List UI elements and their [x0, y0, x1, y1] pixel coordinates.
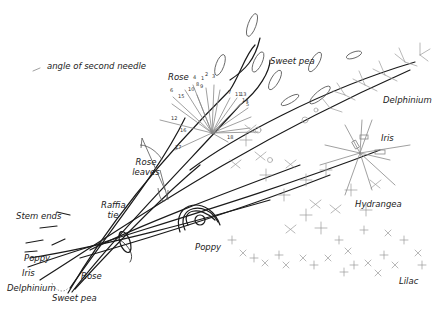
label-iris: Iris — [381, 133, 394, 143]
diagram-sketch: 1 2 3 4 5 6 7 8 9 10 11 12 13 14 15 16 1… — [0, 0, 439, 310]
svg-text:3: 3 — [212, 73, 215, 79]
svg-text:7: 7 — [228, 89, 231, 95]
label-rose-leaves: Rose leaves — [131, 157, 161, 177]
label-stem-poppy: Poppy — [24, 253, 50, 263]
svg-text:17: 17 — [175, 144, 181, 150]
label-raffia-tie: Raffia tie — [101, 200, 125, 220]
label-lilac: Lilac — [399, 276, 418, 286]
svg-text:9: 9 — [200, 83, 203, 89]
svg-text:12: 12 — [171, 115, 177, 121]
label-hydrangea: Hydrangea — [355, 199, 402, 209]
flower-arrangement-diagram: 1 2 3 4 5 6 7 8 9 10 11 12 13 14 15 16 1… — [0, 0, 439, 310]
label-delphinium: Delphinium — [383, 95, 432, 105]
label-stem-delphinium: Delphinium — [7, 283, 56, 293]
label-poppy: Poppy — [195, 242, 221, 252]
label-stem-ends: Stem ends — [16, 211, 61, 221]
svg-text:4: 4 — [193, 74, 196, 80]
label-stem-rose: Rose — [81, 271, 102, 281]
svg-text:6: 6 — [170, 87, 173, 93]
svg-text:14: 14 — [242, 97, 248, 103]
svg-text:2: 2 — [205, 71, 208, 77]
needle-legend-icon — [33, 68, 40, 71]
label-stem-sweet-pea: Sweet pea — [52, 293, 97, 303]
poppy-flower — [178, 205, 220, 232]
label-stem-iris: Iris — [22, 268, 35, 278]
svg-text:16: 16 — [180, 127, 186, 133]
svg-text:8: 8 — [196, 81, 199, 87]
stems — [28, 38, 415, 293]
hydrangea-florets — [230, 108, 381, 234]
svg-text:1: 1 — [201, 75, 204, 81]
label-sweet-pea: Sweet pea — [270, 56, 315, 66]
svg-text:10: 10 — [188, 86, 194, 92]
svg-text:15: 15 — [178, 93, 184, 99]
iris-flower — [320, 120, 410, 195]
legend-label: angle of second needle — [47, 61, 146, 71]
label-rose: Rose — [168, 72, 189, 82]
lilac-florets — [228, 226, 426, 276]
svg-text:18: 18 — [227, 134, 233, 140]
